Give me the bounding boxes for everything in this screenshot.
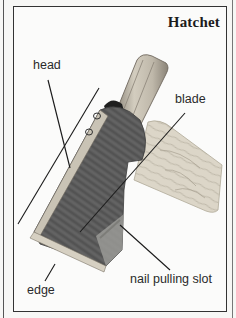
hatchet-illustration xyxy=(0,0,236,318)
leader-line-edge xyxy=(45,264,55,281)
label-nail-pulling-slot: nail pulling slot xyxy=(130,272,212,286)
figure-title: Hatchet xyxy=(168,14,220,31)
label-head: head xyxy=(33,58,61,72)
leader-line-nail-slot xyxy=(120,225,170,270)
hatchet-head xyxy=(30,107,146,272)
label-edge: edge xyxy=(27,283,55,297)
label-blade: blade xyxy=(175,92,206,106)
wood-board xyxy=(134,121,222,212)
